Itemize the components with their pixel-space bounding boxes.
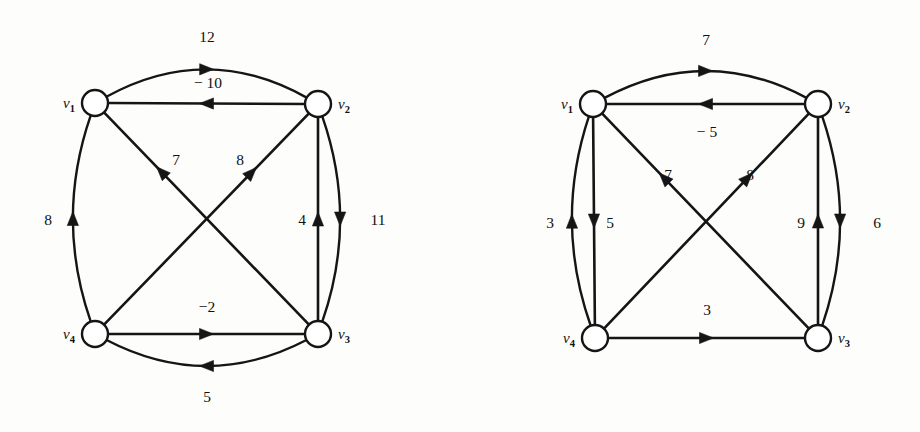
edge-weight-v3-to-v1: 7 xyxy=(172,151,180,168)
edge-weight-v3-to-v2: 9 xyxy=(797,214,805,231)
arrowhead-v2-to-v3 xyxy=(335,212,346,226)
weighted-digraph-left: v1v2v3v412− 10811478−25 xyxy=(0,0,460,432)
node-label-subscript-v4: 4 xyxy=(70,334,76,345)
node-label-v3: v3 xyxy=(838,330,850,349)
node-label-v4: v4 xyxy=(63,326,76,345)
node-v4[interactable] xyxy=(582,325,608,351)
node-label-subscript-v3: 3 xyxy=(345,334,350,345)
arrowhead-v2-to-v3 xyxy=(835,214,846,228)
node-v3[interactable] xyxy=(305,321,331,347)
node-v2[interactable] xyxy=(305,91,331,117)
edge-v3-to-v4 xyxy=(107,340,307,366)
node-v1[interactable] xyxy=(580,91,606,117)
node-label-subscript-v4: 4 xyxy=(570,338,576,349)
edge-v1-to-v2 xyxy=(604,71,806,98)
weight-label-layer: 7− 53569783 xyxy=(546,31,881,318)
node-label-v3: v3 xyxy=(338,326,350,345)
arrowhead-v4-to-v3 xyxy=(200,328,214,339)
node-label-subscript-v2: 2 xyxy=(845,104,850,115)
node-label-subscript-v2: 2 xyxy=(345,104,350,115)
edge-weight-v4-to-v2: 8 xyxy=(746,166,754,183)
node-label-v4: v4 xyxy=(563,330,576,349)
edge-weight-v4-to-v3: −2 xyxy=(199,298,216,315)
edge-weight-v2-to-v3: 11 xyxy=(371,211,386,228)
node-label-v2: v2 xyxy=(838,96,850,115)
edge-weight-v1-to-v4: 5 xyxy=(606,214,614,231)
edge-weight-v2-to-v3: 6 xyxy=(873,214,881,231)
node-label-subscript-v3: 3 xyxy=(845,338,850,349)
arrowhead-v1-to-v4 xyxy=(588,214,599,228)
node-label-v1: v1 xyxy=(561,96,573,115)
node-v4[interactable] xyxy=(82,321,108,347)
weight-label-layer: 12− 10811478−25 xyxy=(44,28,385,405)
node-label-v2: v2 xyxy=(338,96,350,115)
weighted-digraph-figure: v1v2v3v412− 10811478−25v1v2v3v47− 535697… xyxy=(0,0,920,432)
arrowhead-v3-to-v2 xyxy=(812,214,823,228)
edge-weight-v1-to-v2: 12 xyxy=(199,28,215,45)
node-label-v1: v1 xyxy=(63,95,75,114)
edge-weight-v3-to-v4: 5 xyxy=(203,388,211,405)
arrowhead-v4-to-v3 xyxy=(700,332,714,343)
arrowhead-v4-to-v1 xyxy=(67,212,78,226)
node-label-subscript-v1: 1 xyxy=(568,104,573,115)
arrowhead-v3-to-v4 xyxy=(200,360,214,371)
weighted-digraph-right: v1v2v3v47− 53569783 xyxy=(500,0,920,432)
edge-weight-v2-to-v1: − 10 xyxy=(194,74,222,91)
edge-weight-v4-to-v1: 3 xyxy=(546,214,554,231)
edge-weight-v2-to-v1: − 5 xyxy=(697,123,718,140)
edge-weight-v3-to-v1: 7 xyxy=(664,166,672,183)
edge-weight-v4-to-v1: 8 xyxy=(44,211,52,228)
node-label-subscript-v1: 1 xyxy=(70,103,75,114)
node-v1[interactable] xyxy=(82,90,108,116)
node-v2[interactable] xyxy=(805,91,831,117)
node-v3[interactable] xyxy=(805,325,831,351)
edge-weight-v3-to-v2: 4 xyxy=(298,211,306,228)
edge-weight-v1-to-v2: 7 xyxy=(702,31,710,48)
edge-weight-v4-to-v3: 3 xyxy=(703,301,711,318)
arrowhead-v4-to-v1 xyxy=(566,214,577,228)
arrowhead-v2-to-v1 xyxy=(200,98,214,109)
arrowhead-v1-to-v2 xyxy=(699,65,713,76)
edge-weight-v4-to-v2: 8 xyxy=(236,151,244,168)
arrowhead-v3-to-v2 xyxy=(312,212,323,226)
arrowhead-v2-to-v1 xyxy=(699,98,713,109)
